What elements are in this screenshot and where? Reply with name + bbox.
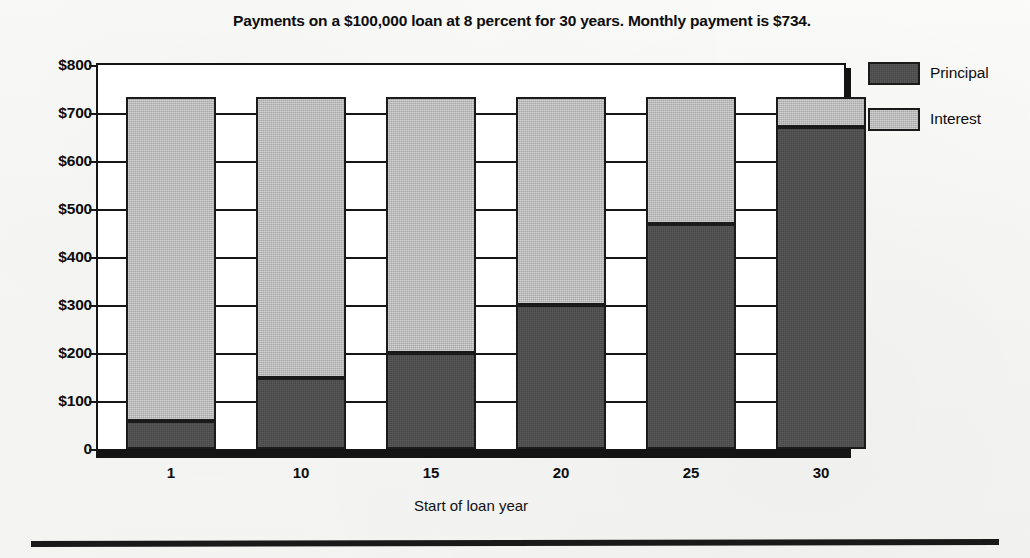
y-axis-label-group: $800$700$600$500$400$300$200$1000: [0, 0, 92, 558]
y-axis-tick: [89, 353, 96, 355]
y-axis-tick: [89, 209, 96, 211]
y-axis-tick: [89, 401, 96, 403]
y-axis-label: $100: [6, 392, 92, 410]
x-axis-label: 20: [516, 464, 606, 481]
y-axis-tick: [89, 305, 96, 307]
x-axis-label: 15: [386, 464, 476, 481]
y-axis-label: $700: [6, 104, 92, 122]
y-axis-label: $600: [6, 152, 92, 170]
bar-segment-principal: [646, 224, 736, 449]
y-axis-tick: [89, 257, 96, 259]
y-axis-label: $200: [6, 344, 92, 362]
bar-segment-interest: [646, 97, 736, 225]
x-axis-label: 1: [126, 464, 216, 481]
stacked-bar: [516, 97, 606, 449]
x-axis-label: 25: [646, 464, 736, 481]
y-axis-tick: [89, 449, 96, 451]
stacked-bar: [646, 97, 736, 449]
chart-legend: PrincipalInterest: [868, 60, 1018, 152]
y-axis-label: $300: [6, 296, 92, 314]
x-axis-label: 30: [776, 464, 866, 481]
bar-segment-principal: [386, 353, 476, 449]
y-axis-tick: [89, 161, 96, 163]
bar-segment-interest: [126, 97, 216, 421]
bar-segment-interest: [256, 97, 346, 379]
y-axis-label: $500: [6, 200, 92, 218]
y-axis-tick: [89, 113, 96, 115]
bar-segment-interest: [386, 97, 476, 353]
legend-label: Interest: [930, 110, 981, 128]
stacked-bar: [256, 97, 346, 449]
legend-swatch-interest: [868, 108, 920, 131]
bar-segment-principal: [126, 421, 216, 449]
bar-segment-interest: [776, 97, 866, 128]
bar-segment-principal: [776, 127, 866, 449]
bar-segment-principal: [516, 305, 606, 449]
y-axis-label: $800: [6, 56, 92, 74]
legend-swatch-principal: [868, 62, 920, 85]
legend-item: Interest: [868, 106, 1018, 132]
legend-label: Principal: [930, 64, 989, 82]
y-axis-tick: [89, 65, 96, 67]
bar-segment-interest: [516, 97, 606, 305]
stacked-bar: [776, 97, 866, 449]
x-axis-title: Start of loan year: [96, 497, 846, 514]
bar-segment-principal: [256, 378, 346, 449]
y-axis-label: 0: [6, 440, 92, 458]
x-axis-label: 10: [256, 464, 346, 481]
chart-title: Payments on a $100,000 loan at 8 percent…: [0, 12, 1030, 30]
stacked-bar: [126, 97, 216, 449]
legend-item: Principal: [868, 60, 1018, 86]
plot-area: [96, 63, 846, 451]
x-axis-line: [96, 451, 851, 458]
stacked-bar: [386, 97, 476, 449]
y-axis-label: $400: [6, 248, 92, 266]
